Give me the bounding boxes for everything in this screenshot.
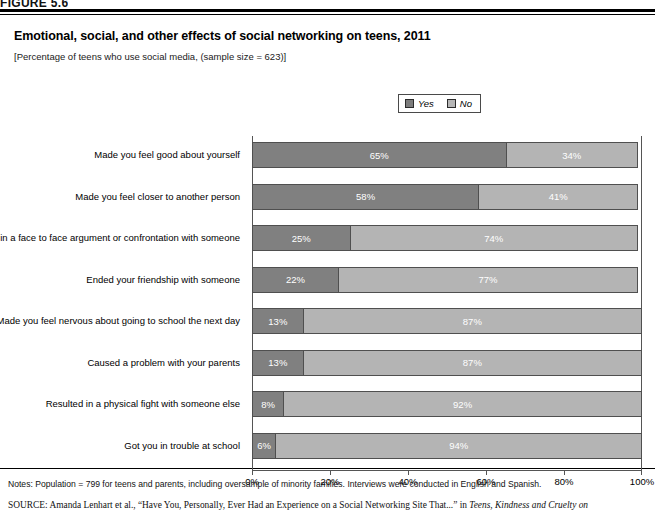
y-axis-label: Ended your friendship with someone bbox=[86, 267, 240, 293]
bar-segment-no[interactable]: 41% bbox=[478, 184, 638, 210]
bar-segment-no[interactable]: 94% bbox=[275, 433, 642, 459]
bar-segment-yes[interactable]: 22% bbox=[252, 267, 338, 293]
bar-row: 13%87% bbox=[252, 308, 642, 334]
bar-value-label: 87% bbox=[463, 357, 482, 368]
bar-value-label: 92% bbox=[453, 399, 472, 410]
bar-value-label: 77% bbox=[478, 274, 497, 285]
bar-row: 6%94% bbox=[252, 433, 642, 459]
bar-value-label: 8% bbox=[261, 399, 275, 410]
bar-segment-yes[interactable]: 6% bbox=[252, 433, 275, 459]
bar-row: 13%87% bbox=[252, 350, 642, 376]
y-axis-label: Resulted in a physical fight with someon… bbox=[46, 391, 240, 417]
bar-row: 25%74% bbox=[252, 225, 642, 251]
bar-value-label: 22% bbox=[286, 274, 305, 285]
bar-segment-no[interactable]: 92% bbox=[283, 391, 642, 417]
x-axis-tick-label: 100% bbox=[630, 476, 654, 487]
bar-segment-no[interactable]: 74% bbox=[350, 225, 639, 251]
bar-value-label: 87% bbox=[463, 316, 482, 327]
bar-rows: 65%34%58%41%25%74%22%77%13%87%13%87%8%92… bbox=[252, 136, 642, 471]
legend-label-no: No bbox=[460, 98, 472, 109]
figure-tag: FIGURE 5.6 bbox=[0, 0, 68, 7]
bar-value-label: 34% bbox=[562, 150, 581, 161]
bar-value-label: 13% bbox=[268, 316, 287, 327]
bar-value-label: 74% bbox=[484, 233, 503, 244]
bar-value-label: 65% bbox=[370, 150, 389, 161]
source-publication-title: Teens, Kindness and Cruelty on bbox=[469, 500, 588, 510]
x-axis-tick bbox=[252, 471, 253, 475]
bar-segment-yes[interactable]: 58% bbox=[252, 184, 478, 210]
y-axis-labels: Made you feel good about yourselfMade yo… bbox=[0, 136, 246, 471]
y-axis-label: Made you feel good about yourself bbox=[94, 142, 240, 168]
bar-segment-no[interactable]: 87% bbox=[303, 308, 642, 334]
bar-row: 22%77% bbox=[252, 267, 642, 293]
bar-value-label: 41% bbox=[549, 191, 568, 202]
plot-area: 65%34%58%41%25%74%22%77%13%87%13%87%8%92… bbox=[252, 136, 642, 471]
bar-segment-yes[interactable]: 13% bbox=[252, 350, 303, 376]
bar-value-label: 6% bbox=[257, 440, 271, 451]
bar-value-label: 94% bbox=[449, 440, 468, 451]
bar-segment-yes[interactable]: 65% bbox=[252, 142, 506, 168]
bar-row: 58%41% bbox=[252, 184, 642, 210]
legend-label-yes: Yes bbox=[418, 98, 434, 109]
legend-swatch-no-icon bbox=[447, 99, 456, 108]
chart-legend: Yes No bbox=[398, 94, 481, 113]
y-axis-label: Made you feel nervous about going to sch… bbox=[0, 308, 240, 334]
bar-value-label: 58% bbox=[356, 191, 375, 202]
x-axis-tick-label: 80% bbox=[554, 476, 573, 487]
bar-segment-no[interactable]: 34% bbox=[506, 142, 639, 168]
chart-subtitle: [Percentage of teens who use social medi… bbox=[14, 51, 286, 62]
y-axis-label: Caused a problem with your parents bbox=[87, 350, 240, 376]
x-axis-tick bbox=[486, 471, 487, 475]
bar-value-label: 25% bbox=[292, 233, 311, 244]
header-rule bbox=[0, 9, 655, 12]
chart-source: SOURCE: Amanda Lenhart et al., “Have You… bbox=[8, 500, 588, 510]
bar-row: 65%34% bbox=[252, 142, 642, 168]
x-axis-tick bbox=[641, 471, 642, 475]
bar-row: 8%92% bbox=[252, 391, 642, 417]
chart-title: Emotional, social, and other effects of … bbox=[14, 29, 431, 43]
y-axis-label: Got you in trouble at school bbox=[124, 433, 240, 459]
chart-notes: Notes: Population = 799 for teens and pa… bbox=[8, 479, 541, 489]
bar-segment-yes[interactable]: 13% bbox=[252, 308, 303, 334]
y-axis-label: Made you feel closer to another person bbox=[75, 184, 240, 210]
bar-segment-yes[interactable]: 25% bbox=[252, 225, 350, 251]
legend-item-no[interactable]: No bbox=[447, 98, 472, 109]
bar-segment-no[interactable]: 87% bbox=[303, 350, 642, 376]
legend-swatch-yes-icon bbox=[405, 99, 414, 108]
bar-segment-no[interactable]: 77% bbox=[338, 267, 638, 293]
x-axis-tick bbox=[408, 471, 409, 475]
x-axis-tick bbox=[330, 471, 331, 475]
x-axis-tick bbox=[564, 471, 565, 475]
source-tag: SOURCE: bbox=[8, 500, 48, 510]
source-text: Amanda Lenhart et al., “Have You, Person… bbox=[48, 500, 470, 510]
bar-value-label: 13% bbox=[268, 357, 287, 368]
bar-segment-yes[interactable]: 8% bbox=[252, 391, 283, 417]
legend-item-yes[interactable]: Yes bbox=[405, 98, 434, 109]
y-axis-label: Resulted in a face to face argument or c… bbox=[0, 225, 240, 251]
figure-panel: Emotional, social, and other effects of … bbox=[0, 14, 655, 469]
